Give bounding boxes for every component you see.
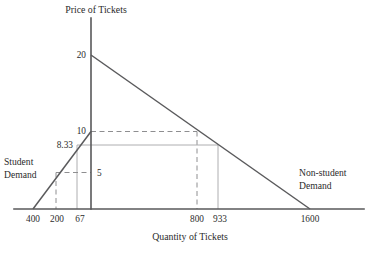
y-axis-title: Price of Tickets xyxy=(65,4,127,15)
non-student-demand-label-line1: Non-student xyxy=(299,167,347,178)
demand-curve-chart: Price of Tickets Quantity of Tickets 20 … xyxy=(0,0,374,263)
economics-demand-figure: Price of Tickets Quantity of Tickets 20 … xyxy=(0,0,374,263)
quantity-label-933: 933 xyxy=(213,214,227,224)
non-student-demand-curve xyxy=(91,55,310,209)
student-demand-label-line2: Demand xyxy=(4,169,37,180)
quantity-label-200: 200 xyxy=(50,214,64,224)
student-demand-label-line1: Student xyxy=(4,156,34,167)
quantity-label-67: 67 xyxy=(75,214,85,224)
price-label-833: 8.33 xyxy=(57,140,74,150)
x-axis-title: Quantity of Tickets xyxy=(152,231,228,242)
price-label-10: 10 xyxy=(77,126,87,136)
quantity-label-400: 400 xyxy=(26,214,40,224)
price-label-5: 5 xyxy=(97,168,102,178)
quantity-label-800: 800 xyxy=(190,214,204,224)
price-label-20: 20 xyxy=(77,50,87,60)
non-student-demand-label-line2: Demand xyxy=(299,180,332,191)
quantity-label-1600: 1600 xyxy=(301,214,320,224)
